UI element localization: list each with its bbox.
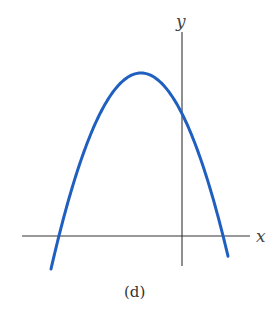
figure-d: y x (d) [0,0,279,314]
x-axis-label: x [256,226,266,246]
y-axis-label: y [175,11,186,31]
parabola-curve [51,73,228,269]
parabola-chart: y x (d) [0,0,279,314]
figure-caption: (d) [124,283,145,301]
